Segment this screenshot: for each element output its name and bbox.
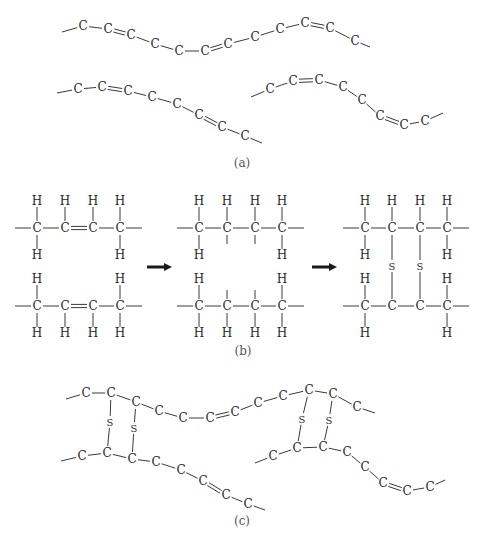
carbon-atom: C [314,73,323,87]
single-bond [303,447,317,448]
carbon-atom: C [442,221,451,235]
sulfur-atom: S [299,414,306,425]
carbon-atom: C [172,97,181,111]
panel-label-b: (b) [234,344,251,358]
carbon-atom: C [88,221,97,235]
carbon-atom: C [415,221,424,235]
hydrogen-atom: H [222,194,232,208]
carbon-atom: C [88,299,97,313]
single-bond [117,395,131,400]
hydrogen-atom: H [250,194,260,208]
single-bond [325,82,337,86]
single-bond [61,457,76,461]
single-bond [338,397,351,404]
hydrogen-atom: H [442,248,452,262]
double-bond [108,86,122,88]
crosslinked-chain-3: CCCCCCCC [255,440,445,498]
hydrogen-atom: H [222,326,232,340]
hydrogen-atom: H [194,272,204,286]
carbon-atom: C [222,299,231,313]
single-bond [88,454,101,456]
carbon-atom: C [151,455,160,469]
hydrogen-atom: H [442,272,452,286]
single-bond [182,107,193,113]
carbon-atom: C [442,299,451,313]
sulfur-bridge-2: S [131,409,138,452]
single-bond [276,83,288,87]
carbon-atom: C [97,80,106,94]
reaction-arrow-2 [312,263,337,271]
single-bond [110,400,111,416]
carbon-atom: C [147,90,156,104]
carbon-atom: C [102,446,111,460]
double-bond [114,29,125,32]
carbon-atom: C [230,405,239,419]
panel-b-crosslinking-mechanism: CHHCHCHCHHCHHCHCHCHHCHHCHCHCHHCHHCHCHCHH… [15,194,469,340]
carbon-atom: C [304,383,313,397]
double-bond [311,23,324,26]
single-bond [134,409,135,422]
single-bond [330,401,332,414]
single-bond [335,31,349,38]
sulfur-bridge-4: S [325,401,333,440]
hydrogen-atom: H [250,326,260,340]
single-bond [289,391,303,394]
single-bond [329,448,341,451]
carbon-atom: C [375,109,384,123]
single-bond [286,24,299,27]
carbon-atom: C [222,221,231,235]
single-bond [352,456,361,463]
single-bond [430,113,443,119]
single-bond [132,434,133,452]
carbon-atom: C [275,22,284,36]
carbon-atom: C [123,84,132,98]
single-bond [413,488,424,490]
carbon-atom: C [325,21,334,35]
carbon-atom: C [150,37,159,51]
hydrogen-atom: H [360,326,370,340]
carbon-atom: C [115,299,124,313]
carbon-atom: C [217,120,226,134]
single-bond [113,454,126,457]
carbon-atom: C [127,452,136,466]
hydrogen-atom: H [277,326,287,340]
panel-label-a: (a) [234,156,251,170]
hydrogen-atom: H [415,194,425,208]
single-bond [369,471,378,479]
double-bond [311,26,324,29]
double-bond [113,32,124,35]
panel-a-unsaturated-chains: CCCCCCCCCCCCCCCCCCCCCCCCCCCC [57,16,443,143]
single-bond [241,405,253,410]
carbon-atom: C [277,221,286,235]
carbon-atom: C [223,37,232,51]
single-bond [254,506,265,510]
single-bond [158,99,171,103]
double-bond [299,79,313,80]
hydrogen-atom: H [194,194,204,208]
double-bond [205,116,217,122]
sulfur-bridge-1: S [107,400,114,446]
carbon-atom: C [292,441,301,455]
carbon-atom: C [221,488,230,502]
single-bond [255,458,267,463]
single-bond [435,480,445,484]
carbon-atom: C [60,221,69,235]
panel-label-c: (c) [234,514,250,528]
single-bond [66,395,80,399]
single-bond [138,460,150,462]
carbon-atom: C [288,74,297,88]
hydrogen-atom: H [88,326,98,340]
carbon-atom: C [243,497,252,511]
carbon-atom: C [360,299,369,313]
carbon-atom: C [399,118,408,132]
crosslinked-chain-2: CCCCCCCC [61,446,265,511]
carbon-atom: C [318,440,327,454]
carbon-atom: C [328,387,337,401]
panel-c-crosslinked-chains: CCCCCCCCCCCCCCCCCCCCCCCCCCCCSSSS [61,383,445,511]
carbon-atom: C [78,19,87,33]
hydrogen-atom: H [88,194,98,208]
hydrogen-atom: H [60,326,70,340]
single-bond [162,464,176,468]
carbon-atom: C [277,299,286,313]
hydrogen-atom: H [194,326,204,340]
